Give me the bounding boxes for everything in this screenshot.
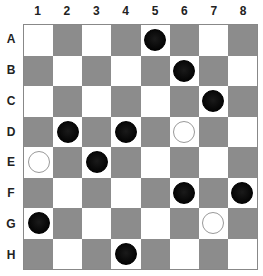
- cell-E2[interactable]: [53, 147, 82, 178]
- row-label-C: C: [4, 94, 18, 108]
- cell-E7[interactable]: [199, 147, 228, 178]
- column-label-2: 2: [52, 4, 81, 18]
- cell-G1[interactable]: [24, 208, 53, 239]
- cell-A8[interactable]: [228, 25, 257, 56]
- white-piece-icon[interactable]: [173, 121, 195, 143]
- cell-F8[interactable]: [228, 178, 257, 209]
- cell-G6[interactable]: [170, 208, 199, 239]
- black-piece-icon[interactable]: [57, 121, 79, 143]
- white-piece-icon[interactable]: [28, 151, 50, 173]
- black-piece-icon[interactable]: [115, 121, 137, 143]
- cell-C2[interactable]: [53, 86, 82, 117]
- column-label-7: 7: [199, 4, 228, 18]
- row-label-G: G: [4, 217, 18, 231]
- column-label-6: 6: [170, 4, 199, 18]
- cell-H4[interactable]: [111, 239, 140, 270]
- cell-B1[interactable]: [24, 56, 53, 87]
- cell-D4[interactable]: [111, 117, 140, 148]
- row-label-E: E: [4, 155, 18, 169]
- cell-A1[interactable]: [24, 25, 53, 56]
- cell-C5[interactable]: [141, 86, 170, 117]
- cell-F4[interactable]: [111, 178, 140, 209]
- cell-D7[interactable]: [199, 117, 228, 148]
- cell-G7[interactable]: [199, 208, 228, 239]
- column-label-4: 4: [111, 4, 140, 18]
- cell-G3[interactable]: [82, 208, 111, 239]
- cell-C6[interactable]: [170, 86, 199, 117]
- cell-C3[interactable]: [82, 86, 111, 117]
- cell-F7[interactable]: [199, 178, 228, 209]
- cell-D1[interactable]: [24, 117, 53, 148]
- cell-C7[interactable]: [199, 86, 228, 117]
- cell-E3[interactable]: [82, 147, 111, 178]
- black-piece-icon[interactable]: [115, 243, 137, 265]
- row-label-B: B: [4, 63, 18, 77]
- cell-F2[interactable]: [53, 178, 82, 209]
- cell-F6[interactable]: [170, 178, 199, 209]
- cell-D2[interactable]: [53, 117, 82, 148]
- cell-E5[interactable]: [141, 147, 170, 178]
- column-label-5: 5: [141, 4, 170, 18]
- cell-A7[interactable]: [199, 25, 228, 56]
- cell-B7[interactable]: [199, 56, 228, 87]
- black-piece-icon[interactable]: [173, 182, 195, 204]
- cell-D3[interactable]: [82, 117, 111, 148]
- cell-H3[interactable]: [82, 239, 111, 270]
- row-label-D: D: [4, 125, 18, 139]
- row-label-A: A: [4, 32, 18, 46]
- cell-B3[interactable]: [82, 56, 111, 87]
- cell-G4[interactable]: [111, 208, 140, 239]
- cell-A6[interactable]: [170, 25, 199, 56]
- cell-A2[interactable]: [53, 25, 82, 56]
- column-label-1: 1: [23, 4, 52, 18]
- cell-A5[interactable]: [141, 25, 170, 56]
- cell-F1[interactable]: [24, 178, 53, 209]
- black-piece-icon[interactable]: [28, 212, 50, 234]
- cell-B8[interactable]: [228, 56, 257, 87]
- cell-G5[interactable]: [141, 208, 170, 239]
- cell-H8[interactable]: [228, 239, 257, 270]
- cell-D8[interactable]: [228, 117, 257, 148]
- row-label-H: H: [4, 248, 18, 262]
- cell-B4[interactable]: [111, 56, 140, 87]
- cell-F5[interactable]: [141, 178, 170, 209]
- cell-E6[interactable]: [170, 147, 199, 178]
- row-label-F: F: [4, 186, 18, 200]
- cell-D5[interactable]: [141, 117, 170, 148]
- cell-B6[interactable]: [170, 56, 199, 87]
- black-piece-icon[interactable]: [86, 151, 108, 173]
- cell-H2[interactable]: [53, 239, 82, 270]
- cell-C8[interactable]: [228, 86, 257, 117]
- game-board: [23, 24, 258, 270]
- cell-H1[interactable]: [24, 239, 53, 270]
- cell-E8[interactable]: [228, 147, 257, 178]
- cell-E4[interactable]: [111, 147, 140, 178]
- column-label-8: 8: [229, 4, 258, 18]
- white-piece-icon[interactable]: [202, 212, 224, 234]
- black-piece-icon[interactable]: [173, 60, 195, 82]
- cell-B5[interactable]: [141, 56, 170, 87]
- black-piece-icon[interactable]: [144, 29, 166, 51]
- cell-C4[interactable]: [111, 86, 140, 117]
- cell-E1[interactable]: [24, 147, 53, 178]
- cell-H6[interactable]: [170, 239, 199, 270]
- cell-D6[interactable]: [170, 117, 199, 148]
- cell-G2[interactable]: [53, 208, 82, 239]
- cell-B2[interactable]: [53, 56, 82, 87]
- cell-F3[interactable]: [82, 178, 111, 209]
- cell-H7[interactable]: [199, 239, 228, 270]
- cell-G8[interactable]: [228, 208, 257, 239]
- black-piece-icon[interactable]: [231, 182, 253, 204]
- cell-A4[interactable]: [111, 25, 140, 56]
- column-label-3: 3: [82, 4, 111, 18]
- cell-C1[interactable]: [24, 86, 53, 117]
- cell-A3[interactable]: [82, 25, 111, 56]
- cell-H5[interactable]: [141, 239, 170, 270]
- black-piece-icon[interactable]: [202, 90, 224, 112]
